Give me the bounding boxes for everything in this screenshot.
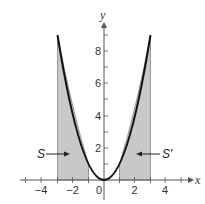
region-label-S: S: [37, 147, 45, 161]
y-tick-label: 4: [95, 110, 101, 122]
x-tick-label: −2: [66, 184, 79, 196]
x-axis-label: x: [194, 173, 201, 187]
parabola-chart: −4 −2 0 2 4 2 4 6 8 x y S S′: [0, 0, 205, 204]
y-tick-label: 8: [95, 45, 101, 57]
shaded-region-S-prime: [120, 35, 151, 180]
y-tick-label: 2: [95, 142, 101, 154]
x-tick-label: 4: [162, 184, 168, 196]
x-tick-label: −4: [35, 184, 48, 196]
shaded-region-S: [58, 35, 89, 180]
x-tick-label: 2: [131, 184, 137, 196]
region-label-S-prime: S′: [162, 147, 173, 161]
x-axis-arrow-icon: [188, 177, 194, 183]
x-tick-label: 0: [96, 184, 102, 196]
y-axis-label: y: [99, 8, 106, 22]
y-ticks: [104, 35, 108, 164]
y-axis-arrow-icon: [101, 22, 107, 28]
y-tick-label: 6: [95, 77, 101, 89]
